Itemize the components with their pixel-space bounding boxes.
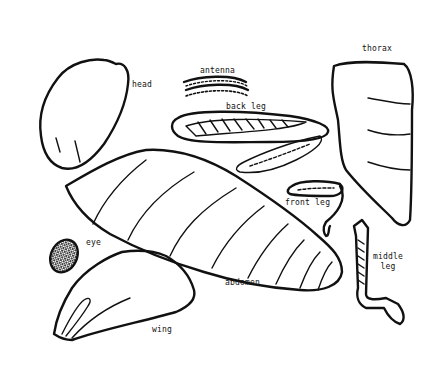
label-back-leg: back leg — [226, 102, 266, 111]
middle-leg-shape — [354, 220, 404, 324]
label-head: head — [132, 80, 152, 89]
antenna-shape — [184, 77, 248, 96]
insect-parts-diagram: head antenna back leg thorax front leg e… — [0, 0, 440, 382]
back-leg-shape — [172, 112, 328, 173]
label-eye: eye — [86, 238, 101, 247]
eye-shape — [45, 235, 83, 277]
label-abdomen: abdomen — [225, 278, 260, 287]
label-middle-leg: middle leg — [373, 252, 403, 272]
label-front-leg: front leg — [285, 198, 330, 207]
label-wing: wing — [152, 325, 172, 334]
thorax-shape — [332, 62, 412, 225]
label-thorax: thorax — [362, 44, 392, 53]
abdomen-shape — [66, 150, 342, 291]
head-shape — [40, 60, 128, 169]
label-antenna: antenna — [200, 66, 235, 75]
front-leg-shape — [288, 181, 343, 236]
